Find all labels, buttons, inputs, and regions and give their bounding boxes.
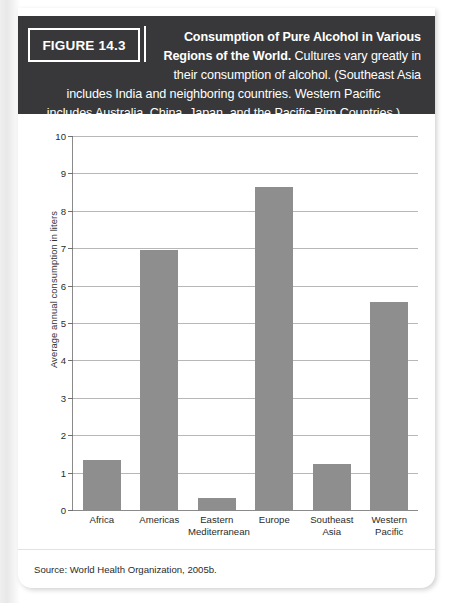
caption-line-2: Regions of the World. Cultures vary grea… — [26, 47, 421, 66]
y-tick-label-7: 7 — [61, 243, 66, 254]
y-tick-label-2: 2 — [61, 430, 66, 441]
y-tick-label-5: 5 — [61, 318, 66, 329]
plot-area: 012345678910AfricaAmericasEasternMediter… — [72, 136, 418, 511]
y-tick-mark-10 — [68, 136, 73, 137]
y-tick-mark-6 — [68, 286, 73, 287]
x-label-line-2: Pacific — [361, 526, 419, 538]
gridline-4 — [73, 360, 418, 361]
bar-southeast — [313, 464, 351, 510]
bar-africa — [83, 460, 121, 510]
bar-western — [370, 302, 408, 510]
y-axis-title: Average annual consumption in liters — [48, 160, 59, 420]
x-label-line-2: Asia — [303, 526, 361, 538]
y-tick-label-4: 4 — [61, 355, 66, 366]
caption-line-3: their consumption of alcohol. (Southeast… — [26, 66, 421, 85]
gridline-9 — [73, 173, 418, 174]
bar-americas — [140, 250, 178, 510]
bar-europe — [255, 187, 293, 511]
caption-line-2-bold: Regions of the World. — [163, 49, 291, 63]
x-label-line-1: Africa — [73, 514, 131, 526]
x-tick-label-americas: Americas — [131, 514, 189, 526]
caption-line-4: includes India and neighboring countries… — [26, 85, 421, 104]
figure-caption: Consumption of Pure Alcohol in Various R… — [26, 28, 427, 123]
bar-eastern — [198, 498, 236, 510]
x-label-line-1: Americas — [131, 514, 189, 526]
y-tick-label-3: 3 — [61, 392, 66, 403]
page-background: FIGURE 14.3 Consumption of Pure Alcohol … — [0, 0, 453, 603]
gridline-6 — [73, 286, 418, 287]
caption-line-2-rest: Cultures vary greatly in — [291, 49, 421, 63]
y-tick-label-6: 6 — [61, 280, 66, 291]
caption-line-1: Consumption of Pure Alcohol in Various — [26, 28, 421, 47]
y-tick-mark-1 — [68, 473, 73, 474]
source-note: Source: World Health Organization, 2005b… — [34, 564, 217, 575]
x-tick-label-europe: Europe — [246, 514, 304, 526]
x-tick-label-southeast: SoutheastAsia — [303, 514, 361, 538]
y-tick-mark-3 — [68, 398, 73, 399]
y-tick-label-1: 1 — [61, 467, 66, 478]
chart-container: Average annual consumption in liters 012… — [18, 114, 435, 544]
figure-header-banner: FIGURE 14.3 Consumption of Pure Alcohol … — [18, 16, 435, 114]
gridline-5 — [73, 323, 418, 324]
y-tick-mark-2 — [68, 435, 73, 436]
x-tick-label-western: WesternPacific — [361, 514, 419, 538]
gridline-1 — [73, 473, 418, 474]
gridline-2 — [73, 435, 418, 436]
y-tick-label-9: 9 — [61, 168, 66, 179]
y-tick-label-10: 10 — [55, 131, 66, 142]
y-tick-mark-5 — [68, 323, 73, 324]
y-tick-mark-4 — [68, 360, 73, 361]
x-label-line-2: Mediterranean — [188, 526, 246, 538]
y-tick-label-0: 0 — [61, 505, 66, 516]
x-label-line-1: Eastern — [188, 514, 246, 526]
x-label-line-1: Europe — [246, 514, 304, 526]
figure-card: FIGURE 14.3 Consumption of Pure Alcohol … — [18, 8, 435, 588]
gridline-7 — [73, 248, 418, 249]
x-label-line-1: Southeast — [303, 514, 361, 526]
y-tick-mark-0 — [68, 510, 73, 511]
y-tick-mark-9 — [68, 173, 73, 174]
gridline-3 — [73, 398, 418, 399]
y-tick-mark-7 — [68, 248, 73, 249]
x-tick-label-eastern: EasternMediterranean — [188, 514, 246, 538]
y-tick-mark-8 — [68, 211, 73, 212]
source-divider — [18, 549, 435, 550]
gridline-10 — [73, 136, 418, 137]
gridline-8 — [73, 211, 418, 212]
y-tick-label-8: 8 — [61, 205, 66, 216]
x-label-line-1: Western — [361, 514, 419, 526]
x-tick-label-africa: Africa — [73, 514, 131, 526]
